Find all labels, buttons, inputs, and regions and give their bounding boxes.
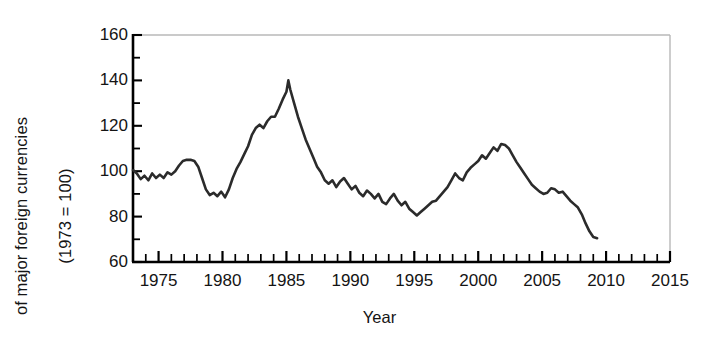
y-tick-label: 100 <box>88 161 128 181</box>
chart-figure: Value of U.S. dollar in terms of major f… <box>0 0 703 343</box>
y-axis-label-line3: (1973 = 100) <box>54 91 76 341</box>
x-tick-label: 1995 <box>395 271 433 291</box>
x-tick-label: 1985 <box>268 271 306 291</box>
x-tick-label: 1980 <box>204 271 242 291</box>
y-tick-label: 60 <box>88 252 128 272</box>
y-tick-label: 80 <box>88 207 128 227</box>
x-axis-label-text: Year <box>363 308 396 327</box>
y-axis-label-line2: of major foreign currencies <box>10 91 32 341</box>
y-tick-label: 160 <box>88 25 128 45</box>
y-axis-tick-labels: 6080100120140160 <box>86 0 128 343</box>
y-tick-label: 140 <box>88 70 128 90</box>
y-tick-label: 120 <box>88 116 128 136</box>
y-axis-label: Value of U.S. dollar in terms of major f… <box>0 91 98 341</box>
x-tick-label: 1975 <box>140 271 178 291</box>
x-axis-label: Year <box>0 308 703 327</box>
x-tick-label: 1990 <box>331 271 369 291</box>
x-tick-label: 2015 <box>651 271 689 291</box>
x-tick-label: 2000 <box>459 271 497 291</box>
x-tick-label: 2005 <box>523 271 561 291</box>
plot-background <box>133 35 670 262</box>
x-tick-label: 2010 <box>587 271 625 291</box>
